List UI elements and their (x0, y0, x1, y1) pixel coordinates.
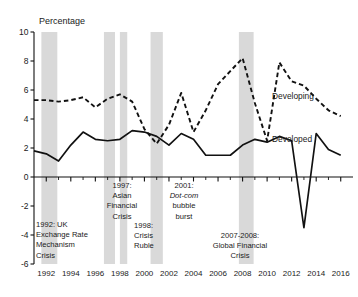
ann-2008-line-2: Crisis (231, 251, 250, 260)
x-tick-label-2000: 2000 (136, 269, 154, 278)
series-label-developing: Developing (272, 91, 314, 101)
y-tick-label-5: 0 (24, 172, 29, 182)
y-tick-label-7: -4 (21, 230, 29, 240)
ann-2001-line-0: 2001: (174, 181, 193, 190)
ann-1997-line-2: Financial (107, 201, 138, 210)
ann-2001-line-3: burst (176, 212, 194, 221)
y-tick-label-2: 6 (24, 85, 29, 95)
x-tick-label-2012: 2012 (283, 269, 301, 278)
ann-1992-line-3: Crisis (36, 251, 55, 260)
crisis-band-5 (239, 32, 254, 264)
ann-1997-line-0: 1997: (112, 181, 131, 190)
x-tick-label-1998: 1998 (111, 269, 129, 278)
y-tick-label-8: -6 (21, 259, 29, 269)
x-tick-label-2014: 2014 (307, 269, 325, 278)
chart-container: 1086420-2-4-6DevelopingDevelopedPercenta… (0, 0, 358, 297)
ann-1998-line-1: Crisis (134, 231, 153, 240)
x-tick-label-2004: 2004 (185, 269, 203, 278)
y-tick-label-0: 10 (19, 27, 29, 37)
ann-2001-line-2: bubble (173, 201, 196, 210)
y-tick-label-4: 2 (24, 143, 29, 153)
x-tick-label-2016: 2016 (332, 269, 350, 278)
x-tick-label-2010: 2010 (258, 269, 276, 278)
ann-2008-line-0: 2007-2008: (221, 231, 259, 240)
x-tick-label-1994: 1994 (62, 269, 80, 278)
y-axis-title: Percentage (39, 16, 85, 26)
y-tick-label-1: 8 (24, 56, 29, 66)
x-tick-label-2008: 2008 (234, 269, 252, 278)
ann-1997-line-3: Crisis (113, 212, 132, 221)
ann-1992-line-0: 1992: UK (36, 220, 68, 229)
crisis-band-2 (104, 32, 115, 264)
ann-1992-line-2: Mechanism (36, 240, 75, 249)
ann-2008-line-1: Global Financial (213, 241, 268, 250)
series-label-developed: Developed (272, 134, 312, 144)
ann-1992-line-1: Exchange Rate (36, 230, 88, 239)
y-tick-label-6: -2 (21, 201, 29, 211)
x-tick-label-1992: 1992 (37, 269, 55, 278)
y-tick-label-3: 4 (24, 114, 29, 124)
ann-1998-line-0: 1998: (134, 221, 153, 230)
crisis-band-1 (41, 32, 57, 264)
ann-2001-line-1: Dot-com (170, 191, 199, 200)
crisis-band-3 (120, 32, 127, 264)
x-tick-label-2006: 2006 (209, 269, 227, 278)
ann-1998-line-2: Ruble (134, 241, 154, 250)
percentage-growth-line-chart: 1086420-2-4-6DevelopingDevelopedPercenta… (0, 0, 358, 297)
x-tick-label-1996: 1996 (86, 269, 104, 278)
series-line-developing (34, 58, 341, 144)
x-tick-label-2002: 2002 (160, 269, 178, 278)
ann-1997-line-1: Asian (113, 191, 132, 200)
